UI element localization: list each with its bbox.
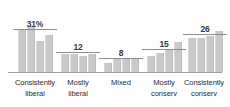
average-line-consistently-conserv xyxy=(183,34,227,35)
bar xyxy=(70,54,78,72)
bar xyxy=(156,53,164,72)
bar xyxy=(113,59,121,72)
bar xyxy=(104,63,112,72)
category-axis: Consistently liberal Mostly liberal Mixe… xyxy=(0,76,230,107)
bar xyxy=(36,41,44,72)
category-label-mixed: Mixed xyxy=(99,78,143,89)
value-label-consistently-conserv: 26 xyxy=(183,24,227,34)
axis-baseline xyxy=(8,72,222,73)
average-line-consistently-liberal xyxy=(13,29,57,30)
bar-group-mixed xyxy=(99,12,143,72)
average-line-mostly-liberal xyxy=(56,52,100,53)
bar xyxy=(18,29,26,72)
category-label-consistently-conserv: Consistently conserv xyxy=(174,78,230,99)
average-line-mostly-conserv xyxy=(142,49,186,50)
bar xyxy=(61,54,69,72)
bar xyxy=(122,59,130,72)
bar xyxy=(79,56,87,72)
bar xyxy=(215,31,223,72)
value-label-mixed: 8 xyxy=(99,48,143,58)
bar-chart: 31% 12 8 15 xyxy=(0,0,230,107)
bar xyxy=(188,38,196,72)
bar xyxy=(197,38,205,72)
bar xyxy=(165,49,173,72)
bar xyxy=(131,58,139,72)
bar xyxy=(206,36,214,72)
value-label-mostly-conserv: 15 xyxy=(142,39,186,49)
bar xyxy=(88,54,96,72)
bar xyxy=(27,26,35,72)
bar-group-consistently-conserv xyxy=(183,12,227,72)
plot-area: 31% 12 8 15 xyxy=(0,0,230,75)
value-label-mostly-liberal: 12 xyxy=(56,42,100,52)
bar xyxy=(147,56,155,72)
value-label-consistently-liberal: 31% xyxy=(13,19,57,29)
category-label-mostly-liberal: Mostly liberal xyxy=(54,78,102,99)
bar xyxy=(45,35,53,72)
average-line-mixed xyxy=(99,58,143,59)
